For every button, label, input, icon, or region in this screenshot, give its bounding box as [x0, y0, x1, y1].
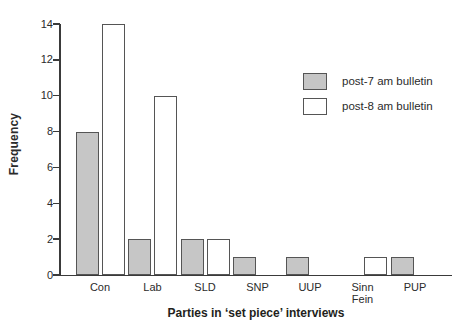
- y-tick-label: 14: [27, 19, 53, 30]
- legend-label-post7: post-7 am bulletin: [342, 75, 433, 87]
- x-category-label-sld: SLD: [185, 281, 225, 293]
- y-tick-label: 0: [27, 270, 53, 281]
- bar-con-post7: [76, 132, 99, 275]
- legend-item-post8: post-8 am bulletin: [303, 97, 433, 115]
- legend-label-post8: post-8 am bulletin: [342, 100, 433, 112]
- bar-snp-post7: [233, 257, 256, 275]
- y-axis-tick: [53, 238, 60, 239]
- y-tick-label: 8: [27, 126, 53, 137]
- bar-con-post8: [102, 24, 125, 275]
- y-tick-label: 4: [27, 198, 53, 209]
- x-category-label-lab: Lab: [133, 281, 173, 293]
- bar-pup-post7: [391, 257, 414, 275]
- frequency-bar-chart: Frequency post-7 am bulletin post-8 am b…: [0, 0, 464, 336]
- bar-lab-post8: [154, 96, 177, 275]
- y-tick-label: 10: [27, 90, 53, 101]
- x-category-label-snp: SNP: [238, 281, 278, 293]
- y-axis-tick: [53, 167, 60, 168]
- y-tick-label: 2: [27, 234, 53, 245]
- y-axis-tick: [53, 23, 60, 24]
- legend-swatch-white: [303, 98, 327, 115]
- y-axis-title: Frequency: [7, 113, 21, 176]
- legend: post-7 am bulletin post-8 am bulletin: [303, 72, 433, 122]
- y-axis-tick: [53, 95, 60, 96]
- y-tick-label: 12: [27, 54, 53, 65]
- y-axis-tick: [53, 131, 60, 132]
- x-category-label-uup: UUP: [290, 281, 330, 293]
- legend-item-post7: post-7 am bulletin: [303, 72, 433, 90]
- y-axis-tick: [53, 203, 60, 204]
- bar-sld-post7: [181, 239, 204, 275]
- x-axis-title: Parties in ‘set piece’ interviews: [60, 306, 452, 320]
- x-category-label-sinn-fein: Sinn Fein: [343, 281, 383, 305]
- legend-swatch-gray: [303, 73, 327, 90]
- y-axis-tick: [53, 59, 60, 60]
- bar-uup-post7: [286, 257, 309, 275]
- y-tick-label: 6: [27, 162, 53, 173]
- x-category-label-pup: PUP: [395, 281, 435, 293]
- bar-lab-post7: [128, 239, 151, 275]
- x-category-label-con: Con: [80, 281, 120, 293]
- bar-sinn-fein-post8: [364, 257, 387, 275]
- bar-sld-post8: [207, 239, 230, 275]
- x-axis-line: [59, 275, 452, 277]
